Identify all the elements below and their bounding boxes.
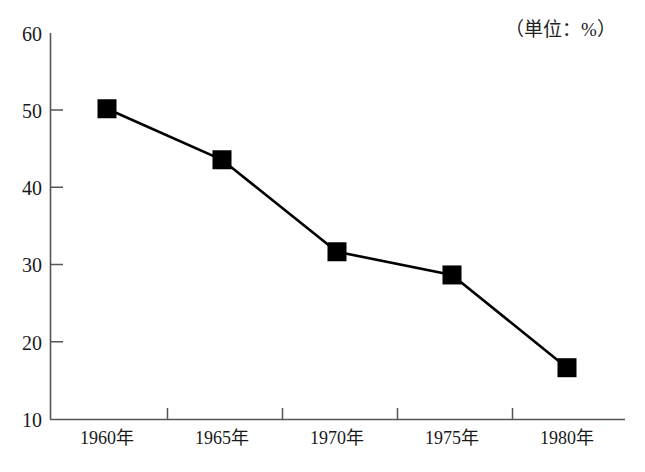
x-axis-label-1980: 1980年 [522,428,612,448]
y-axis-label-50: 50 [8,101,42,121]
data-point-marker [558,358,577,377]
y-axis-label-20: 20 [8,333,42,353]
series-line [107,109,567,368]
x-axis-label-1960: 1960年 [62,428,152,448]
data-point-marker [213,150,232,169]
data-point-marker [443,265,462,284]
x-axis-label-1970: 1970年 [292,428,382,448]
x-axis-label-1965: 1965年 [177,428,267,448]
y-axis-label-60: 60 [8,24,42,44]
chart-plot-area [0,0,645,472]
series-markers [98,99,577,377]
data-point-marker [328,242,347,261]
data-point-marker [98,99,117,118]
y-axis-label-40: 40 [8,178,42,198]
line-chart: （単位：%） 60 50 40 30 20 10 1960年 1965年 197… [0,0,645,472]
x-axis-label-1975: 1975年 [407,428,497,448]
y-axis-label-10: 10 [8,410,42,430]
y-axis-label-30: 30 [8,255,42,275]
